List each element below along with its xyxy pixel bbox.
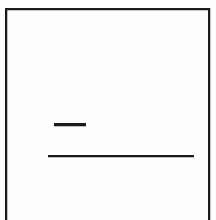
long-horizontal-rule (48, 155, 194, 157)
paper-background (0, 0, 216, 220)
frame-right-edge (208, 8, 210, 220)
figure-canvas (0, 0, 216, 220)
frame-left-edge (5, 8, 7, 220)
frame-top-edge (5, 8, 210, 10)
short-horizontal-rule (54, 123, 86, 126)
